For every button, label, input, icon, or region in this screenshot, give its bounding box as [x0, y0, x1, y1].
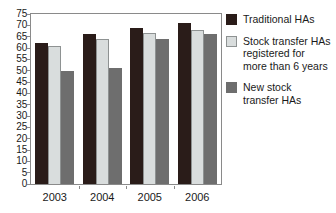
x-axis-label-2003: 2003 — [43, 191, 67, 203]
x-axis-tick-mark — [79, 186, 80, 189]
bar-group-2005 — [130, 14, 169, 184]
bar — [178, 23, 191, 184]
bar — [109, 68, 122, 184]
bar-chart: 051015202530354045505560657075 200320042… — [0, 0, 336, 213]
bar-group-2003 — [35, 14, 74, 184]
legend-item[interactable]: New stock transfer HAs — [226, 81, 334, 106]
legend-item-label: Traditional HAs — [243, 13, 314, 26]
bar-group-2006 — [178, 14, 217, 184]
bar — [48, 46, 61, 184]
legend-item-label: Stock transfer HAs registered for more t… — [243, 35, 331, 73]
x-axis-label-2004: 2004 — [90, 191, 114, 203]
bar — [83, 34, 96, 184]
chart-legend: Traditional HAsStock transfer HAs regist… — [226, 13, 334, 115]
bar-group-2004 — [83, 14, 122, 184]
legend-item[interactable]: Traditional HAs — [226, 13, 334, 26]
bar — [204, 34, 217, 184]
legend-item-label: New stock transfer HAs — [243, 81, 301, 106]
bar — [156, 39, 169, 184]
bar — [96, 39, 109, 184]
bar — [61, 71, 74, 184]
bar — [143, 33, 156, 184]
legend-swatch-traditional — [226, 14, 237, 25]
legend-swatch-stock-transfer — [226, 36, 237, 47]
bar — [130, 28, 143, 184]
y-axis: 051015202530354045505560657075 — [0, 13, 30, 185]
legend-item[interactable]: Stock transfer HAs registered for more t… — [226, 35, 334, 73]
legend-swatch-new-stock — [226, 82, 237, 93]
x-axis-label-2005: 2005 — [138, 191, 162, 203]
x-axis: 2003200420052006 — [30, 186, 222, 208]
x-axis-label-2006: 2006 — [185, 191, 209, 203]
bar — [35, 43, 48, 184]
x-axis-tick-mark — [174, 186, 175, 189]
bar — [191, 30, 204, 184]
bars-layer — [31, 14, 221, 184]
x-axis-tick-mark — [126, 186, 127, 189]
